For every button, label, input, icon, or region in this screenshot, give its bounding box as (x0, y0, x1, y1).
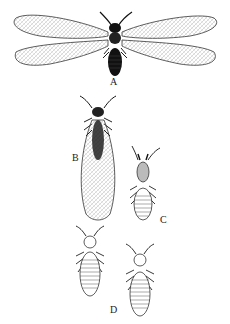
label-d: D (110, 304, 117, 315)
specimen-c-soldier (130, 146, 160, 220)
label-c: C (160, 214, 167, 225)
specimen-b-folded-wings (80, 96, 116, 220)
specimen-d-worker-right (126, 244, 154, 316)
label-b: B (72, 152, 79, 163)
termite-castes-illustration (0, 0, 230, 324)
specimen-a-winged-adult (14, 12, 217, 76)
label-a: A (110, 76, 117, 87)
specimen-d-worker-left (76, 226, 104, 296)
